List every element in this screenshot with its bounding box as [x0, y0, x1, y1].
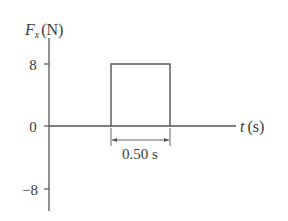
arrow-right-icon [164, 138, 169, 142]
duration-label: 0.50 s [122, 146, 158, 162]
x-axis-label: t(s) [240, 118, 264, 136]
arrow-left-icon [112, 138, 117, 142]
force-pulse [111, 64, 170, 126]
force-time-diagram: Fx(N) 8 0 −8 t(s) 0.50 s [0, 0, 288, 221]
y-axis-label: Fx(N) [24, 21, 63, 40]
y-tick-label-8: 8 [29, 57, 37, 73]
y-tick-label-neg8: −8 [22, 182, 38, 198]
y-tick-label-0: 0 [29, 119, 37, 135]
